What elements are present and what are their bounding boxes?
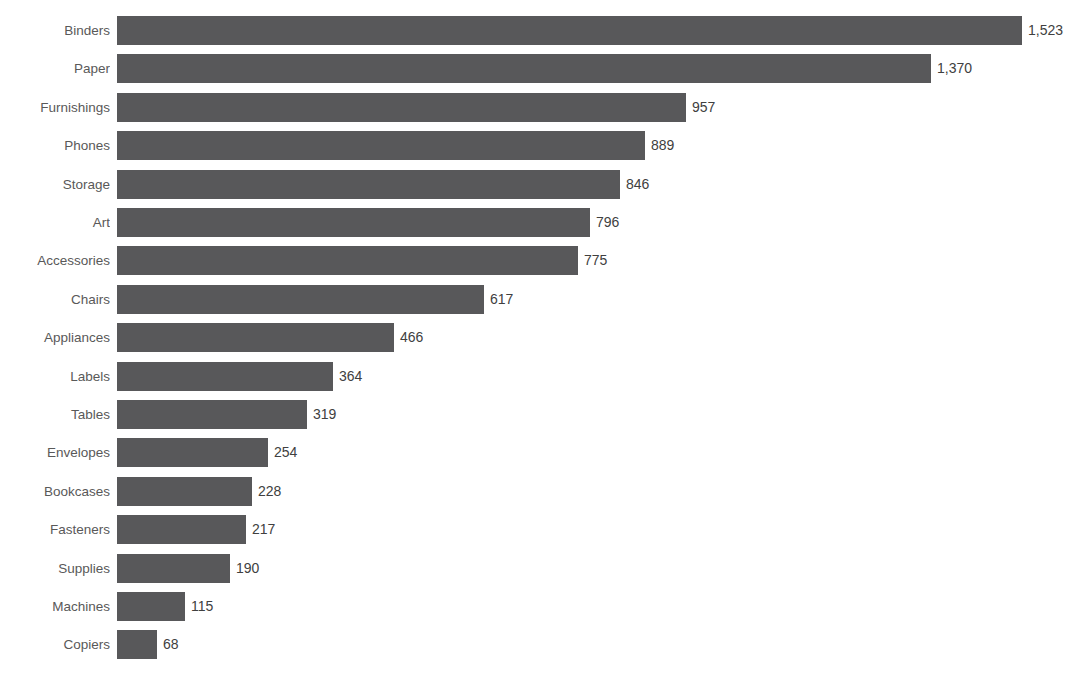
bar-value-label: 228 [258, 477, 281, 506]
bar-row: Bookcases228 [0, 477, 1092, 506]
category-label: Envelopes [0, 438, 110, 467]
bar-value-label: 115 [191, 592, 213, 621]
bar-row: Storage846 [0, 170, 1092, 199]
bar-row: Phones889 [0, 131, 1092, 160]
category-label: Appliances [0, 323, 110, 352]
bar-value-label: 796 [596, 208, 619, 237]
category-label: Supplies [0, 554, 110, 583]
bar-row: Accessories775 [0, 246, 1092, 275]
bar-row: Chairs617 [0, 285, 1092, 314]
bar-value-label: 466 [400, 323, 423, 352]
bar[interactable] [117, 16, 1022, 45]
bar-value-label: 254 [274, 438, 297, 467]
bar-value-label: 617 [490, 285, 513, 314]
category-label: Bookcases [0, 477, 110, 506]
bar-row: Machines115 [0, 592, 1092, 621]
bar-row: Appliances466 [0, 323, 1092, 352]
bar-row: Fasteners217 [0, 515, 1092, 544]
bar[interactable] [117, 554, 230, 583]
bar-row: Supplies190 [0, 554, 1092, 583]
category-label: Labels [0, 362, 110, 391]
category-label: Chairs [0, 285, 110, 314]
bar[interactable] [117, 477, 252, 506]
bar[interactable] [117, 515, 246, 544]
bar-row: Labels364 [0, 362, 1092, 391]
bar-value-label: 190 [236, 554, 259, 583]
bar-value-label: 889 [651, 131, 674, 160]
category-label: Phones [0, 131, 110, 160]
bar[interactable] [117, 246, 578, 275]
bar-value-label: 68 [163, 630, 179, 659]
bar-row: Art796 [0, 208, 1092, 237]
bar-value-label: 1,523 [1028, 16, 1063, 45]
category-label: Fasteners [0, 515, 110, 544]
bar-value-label: 217 [252, 515, 275, 544]
category-label: Binders [0, 16, 110, 45]
bar[interactable] [117, 438, 268, 467]
bar-value-label: 364 [339, 362, 362, 391]
bar[interactable] [117, 170, 620, 199]
category-label: Paper [0, 54, 110, 83]
bar[interactable] [117, 285, 484, 314]
category-label: Storage [0, 170, 110, 199]
bar[interactable] [117, 630, 157, 659]
bar[interactable] [117, 93, 686, 122]
category-label: Machines [0, 592, 110, 621]
bar-row: Paper1,370 [0, 54, 1092, 83]
bar[interactable] [117, 208, 590, 237]
bar[interactable] [117, 131, 645, 160]
bar-row: Binders1,523 [0, 16, 1092, 45]
bar-value-label: 319 [313, 400, 336, 429]
bar[interactable] [117, 54, 931, 83]
bar-row: Envelopes254 [0, 438, 1092, 467]
plot-area: Binders1,523Paper1,370Furnishings957Phon… [0, 0, 1092, 700]
bar[interactable] [117, 592, 185, 621]
category-label: Accessories [0, 246, 110, 275]
bar-value-label: 775 [584, 246, 607, 275]
category-label: Tables [0, 400, 110, 429]
bar-row: Copiers68 [0, 630, 1092, 659]
bar-row: Furnishings957 [0, 93, 1092, 122]
bar[interactable] [117, 400, 307, 429]
bar-row: Tables319 [0, 400, 1092, 429]
category-label: Furnishings [0, 93, 110, 122]
bar-value-label: 846 [626, 170, 649, 199]
bar[interactable] [117, 323, 394, 352]
bar-value-label: 957 [692, 93, 715, 122]
bar-chart: Binders1,523Paper1,370Furnishings957Phon… [0, 0, 1092, 700]
category-label: Art [0, 208, 110, 237]
bar-value-label: 1,370 [937, 54, 972, 83]
bar[interactable] [117, 362, 333, 391]
category-label: Copiers [0, 630, 110, 659]
